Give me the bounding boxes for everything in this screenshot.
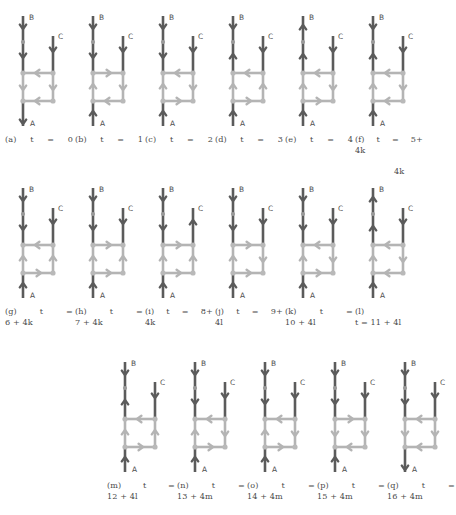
svg-text:C: C bbox=[268, 204, 273, 213]
panel-caption-h: (h) t =7 + 4k bbox=[75, 306, 143, 328]
caption-head: (p) t = bbox=[317, 480, 385, 490]
svg-text:A: A bbox=[170, 119, 175, 128]
svg-text:C: C bbox=[198, 204, 203, 213]
svg-text:B: B bbox=[239, 13, 244, 22]
panel-caption-c: (c) t = 2 bbox=[145, 134, 213, 145]
figure-panel-c: BCA(c) t = 2 bbox=[144, 6, 214, 145]
panel-caption-o: (o) t =14 + 4m bbox=[247, 480, 315, 502]
svg-text:C: C bbox=[370, 378, 375, 387]
caption-head: (q) t = bbox=[387, 480, 455, 490]
svg-text:B: B bbox=[271, 359, 276, 368]
panel-caption-p: (p) t =15 + 4m bbox=[317, 480, 385, 502]
panel-caption-l: (l)t = 11 + 4l bbox=[355, 306, 423, 328]
svg-text:A: A bbox=[380, 291, 385, 300]
caption-tail: 4k bbox=[355, 145, 423, 156]
svg-text:B: B bbox=[29, 185, 34, 194]
svg-text:A: A bbox=[30, 291, 35, 300]
caption-tail: 6 + 4k bbox=[5, 317, 73, 328]
svg-text:B: B bbox=[309, 185, 314, 194]
caption-head: (o) t = bbox=[247, 480, 315, 490]
caption-head: (e) t = 4 bbox=[285, 134, 353, 144]
figure-row-1: BCA(a) t = 0BCA(b) t = 1BCA(c) t = 2BCA(… bbox=[4, 6, 452, 156]
svg-text:B: B bbox=[379, 13, 384, 22]
ladder-diagram-d: BCA bbox=[214, 6, 284, 128]
svg-text:B: B bbox=[169, 13, 174, 22]
panel-caption-n: (n) t =13 + 4m bbox=[177, 480, 245, 502]
ladder-diagram-o: BCA bbox=[246, 352, 316, 474]
svg-text:C: C bbox=[230, 378, 235, 387]
svg-text:C: C bbox=[58, 32, 63, 41]
svg-text:C: C bbox=[128, 32, 133, 41]
svg-text:C: C bbox=[58, 204, 63, 213]
svg-text:A: A bbox=[132, 465, 137, 474]
figure-panel-p: BCA(p) t =15 + 4m bbox=[316, 352, 386, 502]
figure-row-3: BCA(m) t =12 + 4lBCA(n) t =13 + 4mBCA(o)… bbox=[106, 352, 452, 502]
figure-panel-h: BCA(h) t =7 + 4k bbox=[74, 178, 144, 328]
caption-head: (m) t = bbox=[107, 480, 175, 490]
svg-text:B: B bbox=[99, 13, 104, 22]
ladder-diagram-h: BCA bbox=[74, 178, 144, 300]
figure-panel-j: BCA(j) t = 9+4l bbox=[214, 178, 284, 328]
ladder-diagram-n: BCA bbox=[176, 352, 246, 474]
caption-head: (i) t = 8+ bbox=[145, 306, 213, 316]
caption-head: (f) t = 5+ bbox=[355, 134, 423, 144]
caption-tail: 15 + 4m bbox=[317, 491, 385, 502]
ladder-diagram-q: BCA bbox=[386, 352, 456, 474]
caption-tail: 4k bbox=[145, 317, 213, 328]
figure-panel-d: BCA(d) t = 3 bbox=[214, 6, 284, 145]
svg-text:B: B bbox=[99, 185, 104, 194]
figure-sheet: BCA(a) t = 0BCA(b) t = 1BCA(c) t = 2BCA(… bbox=[0, 0, 456, 515]
panel-caption-b: (b) t = 1 bbox=[75, 134, 143, 145]
svg-text:C: C bbox=[198, 32, 203, 41]
svg-text:C: C bbox=[338, 204, 343, 213]
figure-row-2: BCA(g) t =6 + 4kBCA(h) t =7 + 4kBCA(i) t… bbox=[4, 178, 452, 328]
svg-text:C: C bbox=[408, 204, 413, 213]
caption-tail: 12 + 4l bbox=[107, 491, 175, 502]
svg-text:C: C bbox=[440, 378, 445, 387]
svg-text:B: B bbox=[309, 13, 314, 22]
svg-text:A: A bbox=[202, 465, 207, 474]
caption-head: (d) t = 3 bbox=[215, 134, 283, 144]
panel-caption-k: (k) t =10 + 4l bbox=[285, 306, 353, 328]
ladder-diagram-a: BCA bbox=[4, 6, 74, 128]
caption-tail: 10 + 4l bbox=[285, 317, 353, 328]
svg-text:A: A bbox=[310, 291, 315, 300]
svg-text:A: A bbox=[100, 119, 105, 128]
ladder-diagram-p: BCA bbox=[316, 352, 386, 474]
ladder-diagram-c: BCA bbox=[144, 6, 214, 128]
svg-text:A: A bbox=[310, 119, 315, 128]
caption-head: (j) t = 9+ bbox=[215, 306, 283, 316]
panel-caption-e: (e) t = 4 bbox=[285, 134, 353, 145]
caption-head: (g) t = bbox=[5, 306, 73, 316]
svg-text:A: A bbox=[170, 291, 175, 300]
panel-caption-a: (a) t = 0 bbox=[5, 134, 73, 145]
figure-panel-o: BCA(o) t =14 + 4m bbox=[246, 352, 316, 502]
caption-head: (b) t = 1 bbox=[75, 134, 143, 144]
figure-panel-e: BCA(e) t = 4 bbox=[284, 6, 354, 145]
caption-overflow-tail: 4k bbox=[394, 166, 404, 177]
panel-caption-g: (g) t =6 + 4k bbox=[5, 306, 73, 328]
svg-text:C: C bbox=[300, 378, 305, 387]
figure-panel-n: BCA(n) t =13 + 4m bbox=[176, 352, 246, 502]
figure-panel-q: BCA(q) t =16 + 4m bbox=[386, 352, 456, 502]
ladder-diagram-k: BCA bbox=[284, 178, 354, 300]
svg-text:B: B bbox=[169, 185, 174, 194]
svg-text:A: A bbox=[100, 291, 105, 300]
svg-text:A: A bbox=[380, 119, 385, 128]
caption-head: (a) t = 0 bbox=[5, 134, 73, 144]
ladder-diagram-e: BCA bbox=[284, 6, 354, 128]
ladder-diagram-m: BCA bbox=[106, 352, 176, 474]
figure-panel-a: BCA(a) t = 0 bbox=[4, 6, 74, 145]
figure-panel-f: BCA(f) t = 5+4k bbox=[354, 6, 424, 156]
svg-text:A: A bbox=[412, 465, 417, 474]
caption-head: (k) t = bbox=[285, 306, 353, 316]
caption-tail: 14 + 4m bbox=[247, 491, 315, 502]
svg-text:B: B bbox=[379, 185, 384, 194]
svg-text:B: B bbox=[411, 359, 416, 368]
figure-panel-b: BCA(b) t = 1 bbox=[74, 6, 144, 145]
svg-text:A: A bbox=[342, 465, 347, 474]
caption-head: (l) bbox=[355, 306, 364, 316]
panel-caption-j: (j) t = 9+4l bbox=[215, 306, 283, 328]
caption-head: (n) t = bbox=[177, 480, 245, 490]
caption-tail: 16 + 4m bbox=[387, 491, 455, 502]
